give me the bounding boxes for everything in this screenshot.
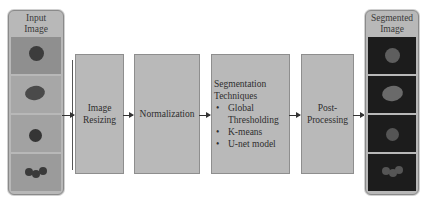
- step-normalization: Normalization: [134, 54, 200, 174]
- input-thumbnail-3: [11, 115, 61, 152]
- mask-region: [385, 48, 400, 63]
- mask-thumbnail-1: [368, 37, 416, 74]
- cell-nucleus: [24, 84, 46, 101]
- arrow-input-to-resizing: [62, 115, 74, 116]
- method-u-net: U-net model: [214, 138, 289, 150]
- mask-thumbnail-3: [368, 115, 416, 152]
- input-thumbnail-1: [11, 37, 61, 74]
- mask-region: [395, 166, 403, 174]
- arrow-segmentation-to-postprocessing: [289, 115, 300, 116]
- segmented-image-title: Segmented Image: [366, 13, 418, 35]
- input-image-panel: Input Image: [8, 10, 64, 195]
- segmentation-methods-list: Global Thresholding K-means U-net model: [214, 102, 289, 150]
- method-global-thresholding: Global Thresholding: [214, 102, 289, 126]
- cell-nucleus: [39, 167, 47, 175]
- input-thumbnail-2: [11, 76, 61, 113]
- mask-thumbnail-2: [368, 76, 416, 113]
- input-thumbnail-4: [11, 154, 61, 191]
- arrow-postprocessing-to-output: [353, 115, 364, 116]
- cell-nucleus: [29, 46, 44, 61]
- arrow-resizing-to-normalization: [123, 115, 133, 116]
- step-post-processing: Post-Processing: [301, 54, 354, 174]
- step-image-resizing: ImageResizing: [75, 54, 124, 174]
- cell-nucleus: [29, 129, 42, 142]
- mask-region: [386, 128, 399, 141]
- input-image-title: Input Image: [9, 13, 63, 35]
- method-k-means: K-means: [214, 126, 289, 138]
- arrow-normalization-to-segmentation: [199, 115, 210, 116]
- segmented-image-panel: Segmented Image: [365, 10, 419, 195]
- step-segmentation-techniques: Segmentation Techniques Global Threshold…: [211, 54, 290, 174]
- mask-thumbnail-4: [368, 154, 416, 191]
- mask-region: [381, 84, 404, 102]
